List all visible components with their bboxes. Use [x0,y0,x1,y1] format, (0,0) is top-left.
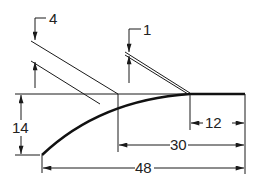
diagonal-line-upper [31,41,118,94]
dim-label-4: 4 [49,10,57,27]
diagonal-line-lower [31,61,100,104]
dim-label-30: 30 [170,136,187,153]
leader-4 [35,18,46,40]
thin-line-upper [125,52,190,93]
dim-label-48: 48 [135,159,152,176]
technical-drawing: 4 1 14 12 30 48 [0,0,257,184]
dim-label-12: 12 [205,114,222,131]
dim-label-1: 1 [143,21,151,38]
thin-line-lower [125,55,188,94]
dim-label-14: 14 [12,119,29,136]
leader-1 [129,29,141,52]
